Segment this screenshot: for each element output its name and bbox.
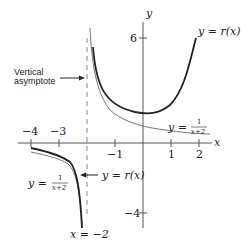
recip-label-left-den: x+2 xyxy=(52,184,67,192)
y-tick-label-6: 6 xyxy=(130,32,137,45)
x-tick-label-neg1: −1 xyxy=(107,148,123,161)
r-label-bottom: y = r(x) xyxy=(101,169,144,182)
recip-label-left-num: 1 xyxy=(58,174,62,182)
x-axis-label: x xyxy=(214,136,221,149)
reciprocal-curve-right xyxy=(90,28,210,134)
y-axis-label: y xyxy=(145,7,153,20)
x-tick-label-2: 2 xyxy=(196,148,203,161)
r-arrow-head xyxy=(80,173,86,178)
asymptote-equation-label: x = −2 xyxy=(70,228,109,240)
x-tick-label-1: 1 xyxy=(168,148,175,161)
x-tick-label-neg4: −4 xyxy=(22,125,38,138)
recip-label-right-num: 1 xyxy=(197,118,201,126)
r-curve-right xyxy=(93,38,196,113)
recip-label-left-lhs: y = xyxy=(27,177,47,190)
y-tick-label-neg4: −4 xyxy=(124,207,140,220)
asymptote-arrow-head xyxy=(79,76,85,81)
recip-label-right-den: x+2 xyxy=(191,128,206,136)
r-label-top: y = r(x) xyxy=(197,25,240,38)
recip-label-right-lhs: y = xyxy=(167,121,187,134)
rational-function-graph: y x −4 −3 −1 1 2 6 −4 Vertical asymptote… xyxy=(0,0,249,240)
asymptote-label-line2: asymptote xyxy=(14,76,56,86)
x-tick-label-neg3: −3 xyxy=(50,125,66,138)
